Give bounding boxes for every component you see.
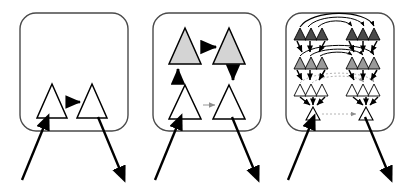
panel-2-box	[153, 13, 261, 131]
recursive-hierarchy-diagram	[0, 0, 410, 184]
diagram-canvas	[0, 0, 410, 184]
panel-3-box	[286, 13, 394, 131]
panel-1	[20, 13, 128, 180]
panel-1-box	[20, 13, 128, 131]
panel-2	[153, 13, 261, 180]
panel-3	[286, 13, 394, 180]
